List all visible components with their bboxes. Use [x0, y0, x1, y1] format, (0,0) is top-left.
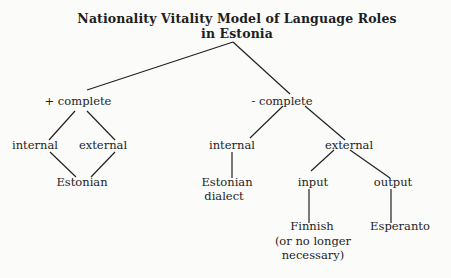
edge-internal-estonian — [50, 152, 76, 177]
node-finnish-line-1: Finnish — [290, 219, 333, 233]
edge-external-estonian — [91, 152, 115, 177]
title-line-2: in Estonia — [201, 27, 273, 41]
node-estonian-dialect-line-2: dialect — [204, 189, 243, 203]
edge-plus-internal — [49, 111, 75, 140]
node-plus-external: external — [79, 138, 127, 152]
node-estonian-dialect-line-1: Estonian — [201, 175, 252, 189]
node-output: output — [374, 175, 412, 189]
edge-plus-external — [87, 111, 115, 140]
edge-root-minus-complete — [233, 42, 290, 94]
node-minus-complete: - complete — [251, 94, 312, 108]
node-plus-complete: + complete — [45, 94, 112, 108]
node-input: input — [298, 175, 328, 189]
node-finnish-line-3: necessary) — [282, 248, 345, 262]
node-minus-internal: internal — [209, 138, 255, 152]
edge-minus-internal — [250, 106, 283, 138]
edge-external-input — [311, 150, 334, 171]
title-line-1: Nationality Vitality Model of Language R… — [77, 12, 396, 26]
node-finnish-line-2: (or no longer — [275, 234, 351, 248]
node-minus-external: external — [325, 138, 373, 152]
edge-root-plus-complete — [87, 42, 233, 90]
node-esperanto: Esperanto — [370, 219, 430, 233]
edge-external-output — [350, 150, 390, 178]
node-plus-internal: internal — [12, 138, 58, 152]
edge-minus-external — [305, 106, 345, 140]
node-estonian: Estonian — [56, 175, 107, 189]
